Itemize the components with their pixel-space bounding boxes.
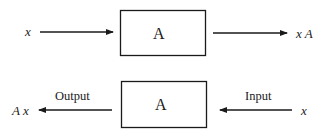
- output-label: Output: [55, 90, 90, 103]
- bottom-input-var: x: [301, 104, 307, 117]
- bottom-box-label: A: [155, 97, 167, 113]
- top-input-var: x: [25, 25, 31, 38]
- bottom-output-expr: A x: [12, 104, 29, 117]
- input-label: Input: [245, 90, 271, 103]
- top-output-expr: x A: [296, 27, 313, 40]
- diagram-canvas: [0, 0, 325, 133]
- top-box-label: A: [153, 26, 165, 42]
